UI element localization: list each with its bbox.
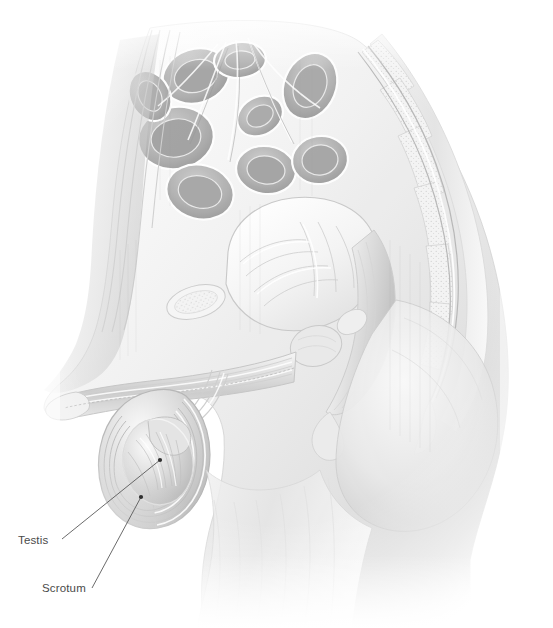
leader-dot-testis: [158, 458, 162, 462]
label-scrotum: Scrotum: [42, 583, 86, 595]
leader-dot-scrotum: [139, 495, 143, 499]
label-testis: Testis: [18, 535, 48, 547]
anatomy-illustration: [0, 0, 553, 628]
anatomical-figure: Testis Scrotum: [0, 0, 553, 628]
